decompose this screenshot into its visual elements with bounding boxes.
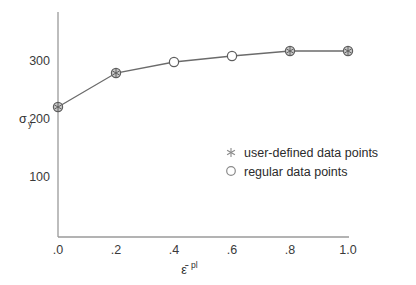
y-axis-title: σ bbox=[19, 112, 27, 126]
data-point-marker-0[interactable] bbox=[53, 102, 62, 111]
x-tick-label-1: .2 bbox=[111, 243, 121, 257]
legend-entry-user-defined[interactable]: user-defined data points bbox=[227, 146, 378, 160]
yield-stress-plot: 300 200 100 σ y .0 .2 .4 .6 .8 1.0 ε̄ pl bbox=[0, 0, 416, 285]
x-tick-label-0: .0 bbox=[53, 243, 63, 257]
y-tick-label-100: 100 bbox=[29, 170, 50, 184]
data-point-marker-2[interactable] bbox=[169, 57, 178, 66]
x-axis-title-superscript: pl bbox=[191, 260, 198, 270]
data-point-marker-5[interactable] bbox=[343, 46, 352, 55]
x-tick-label-3: .6 bbox=[227, 243, 237, 257]
circle-icon bbox=[227, 167, 236, 176]
x-tick-label-4: .8 bbox=[285, 243, 295, 257]
legend-label-regular: regular data points bbox=[244, 165, 348, 179]
data-point-marker-1[interactable] bbox=[111, 68, 120, 77]
data-point-marker-4[interactable] bbox=[285, 46, 294, 55]
legend-entry-regular[interactable]: regular data points bbox=[227, 165, 348, 179]
x-tick-label-5: 1.0 bbox=[339, 243, 356, 257]
y-tick-label-300: 300 bbox=[29, 54, 50, 68]
x-tick-label-2: .4 bbox=[169, 243, 179, 257]
legend-label-user-defined: user-defined data points bbox=[244, 146, 378, 160]
data-point-marker-3[interactable] bbox=[227, 51, 236, 60]
y-tick-label-200: 200 bbox=[29, 112, 50, 126]
chart-figure: 300 200 100 σ y .0 .2 .4 .6 .8 1.0 ε̄ pl bbox=[0, 0, 416, 285]
